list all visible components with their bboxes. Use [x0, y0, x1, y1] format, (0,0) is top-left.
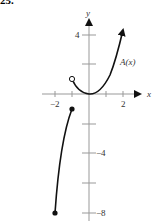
x-axis-label: x: [146, 89, 151, 99]
left-curve: [55, 109, 72, 213]
closed-endpoint-top: [69, 106, 74, 111]
open-endpoint: [69, 76, 74, 81]
y-tick-label-neg8: −8: [96, 208, 106, 218]
graph: y x −2 2 4 −4 −8 A(x): [0, 0, 166, 221]
y-tick-label-4: 4: [75, 30, 80, 40]
curve-label: A(x): [119, 57, 136, 67]
x-tick-label-2: 2: [121, 99, 126, 109]
x-tick-label-neg2: −2: [50, 99, 60, 109]
y-axis-label: y: [85, 8, 90, 18]
y-tick-label-neg4: −4: [96, 148, 106, 158]
parabola-curve: [72, 30, 123, 94]
closed-endpoint-bottom: [52, 210, 57, 215]
